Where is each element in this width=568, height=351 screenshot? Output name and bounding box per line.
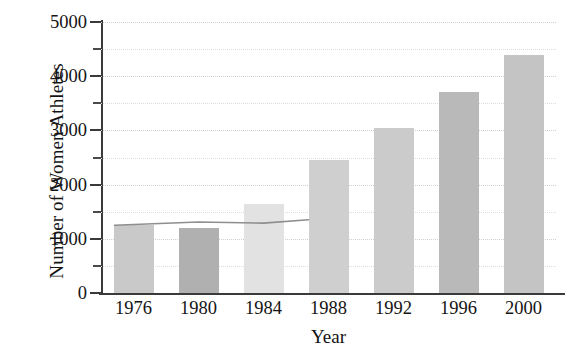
y-tick-minor	[93, 157, 101, 159]
y-tick-label: 5000	[31, 13, 87, 32]
x-tick-label: 1992	[361, 299, 426, 318]
y-tick-minor	[93, 48, 101, 50]
y-tick-minor	[93, 211, 101, 213]
x-tick-label: 2000	[491, 299, 556, 318]
x-tick-label: 1976	[101, 299, 166, 318]
y-tick-label: 2000	[31, 176, 87, 195]
x-axis-tick-labels: 1976198019841988199219962000	[101, 299, 556, 327]
y-tick-major	[90, 292, 101, 294]
y-tick-major	[90, 21, 101, 23]
y-tick-minor	[93, 265, 101, 267]
y-tick-label: 4000	[31, 67, 87, 86]
y-tick-minor	[93, 102, 101, 104]
x-tick-label: 1980	[166, 299, 231, 318]
y-tick-major	[90, 129, 101, 131]
plot-area	[101, 22, 556, 293]
bar-chart: Number of Women Athletes 010002000300040…	[0, 0, 568, 351]
trend-line-overlay	[101, 22, 556, 293]
x-axis-line	[99, 293, 565, 295]
x-tick-label: 1988	[296, 299, 361, 318]
y-tick-label: 1000	[31, 230, 87, 249]
y-tick-major	[90, 238, 101, 240]
y-tick-label: 0	[31, 284, 87, 303]
y-tick-label: 3000	[31, 121, 87, 140]
x-tick-label: 1996	[426, 299, 491, 318]
y-axis-tick-labels: 010002000300040005000	[27, 0, 87, 351]
y-tick-major	[90, 75, 101, 77]
y-tick-major	[90, 184, 101, 186]
x-axis-title: Year	[101, 326, 556, 348]
x-tick-label: 1984	[231, 299, 296, 318]
